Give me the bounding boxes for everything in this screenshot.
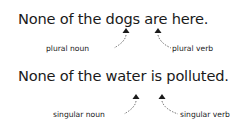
plural-noun-arrow-icon <box>114 28 130 48</box>
plural-verb-arrow-icon <box>155 28 172 48</box>
singular-verb-arrow-icon <box>159 94 179 114</box>
annotation-arrows <box>0 0 250 128</box>
singular-noun-arrow-icon <box>124 94 140 114</box>
